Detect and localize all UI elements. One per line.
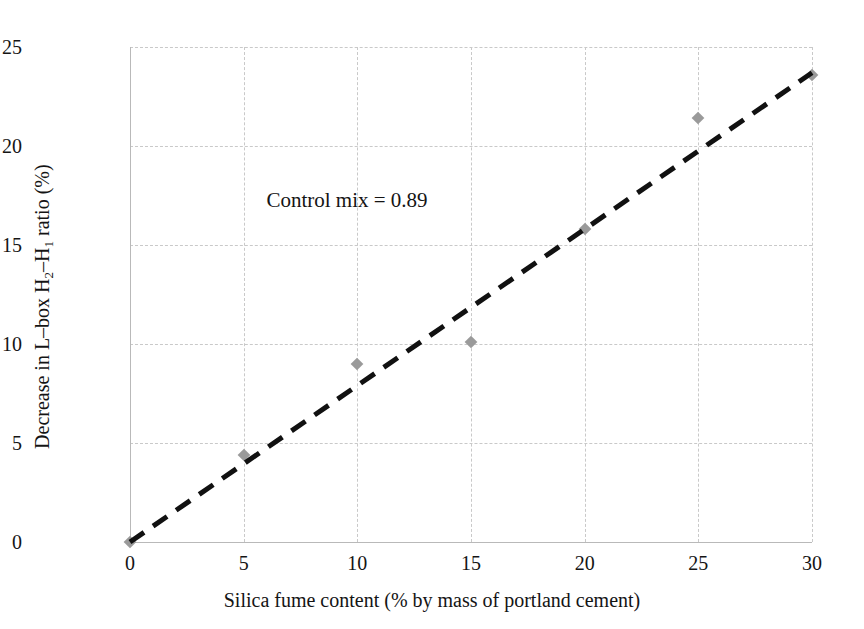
chart-figure: Decrease in L–box H2–H1 ratio (%) Silica… — [0, 0, 864, 629]
x-axis-title: Silica fume content (% by mass of portla… — [0, 589, 864, 612]
y-axis-title-post: ratio (%) — [31, 164, 53, 241]
y-tick-label-25: 25 — [0, 37, 22, 57]
y-axis-title-pre: Decrease in L–box H — [31, 278, 53, 449]
y-axis-title-sub2: 1 — [41, 241, 56, 248]
y-tick-label-10: 10 — [0, 334, 22, 354]
gridline-x-30 — [812, 47, 813, 542]
y-axis-title-mid: –H — [31, 247, 53, 271]
x-tick-label-25: 25 — [668, 553, 728, 573]
x-tick-label-10: 10 — [327, 553, 387, 573]
y-tick-label-0: 0 — [0, 532, 22, 552]
plot-area: Control mix = 0.89 — [130, 47, 812, 542]
y-axis-title: Decrease in L–box H2–H1 ratio (%) — [31, 57, 56, 557]
y-tick-label-15: 15 — [0, 235, 22, 255]
x-tick-label-20: 20 — [555, 553, 615, 573]
y-tick-label-20: 20 — [0, 136, 22, 156]
control-mix-annotation: Control mix = 0.89 — [266, 188, 427, 213]
x-tick-label-30: 30 — [782, 553, 842, 573]
y-axis-title-sub1: 2 — [41, 272, 56, 279]
trendline — [130, 47, 812, 542]
gridline-y-0 — [130, 542, 812, 543]
x-tick-label-15: 15 — [441, 553, 501, 573]
y-tick-label-5: 5 — [0, 433, 22, 453]
x-tick-label-0: 0 — [100, 553, 160, 573]
x-tick-label-5: 5 — [214, 553, 274, 573]
